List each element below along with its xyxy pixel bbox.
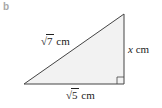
triangle-shape <box>24 14 124 84</box>
vertical-side-label: x cm <box>128 43 149 55</box>
hypotenuse-label: √7 cm <box>41 35 70 47</box>
base-label: √5 cm <box>66 89 95 101</box>
